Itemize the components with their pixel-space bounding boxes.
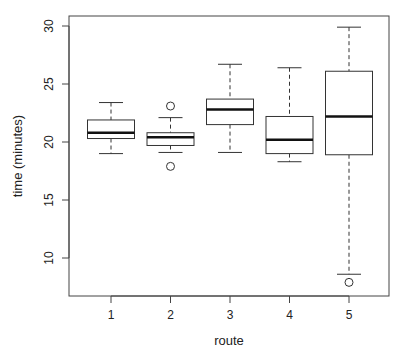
iqr-box [326, 71, 373, 155]
x-tick-label: 3 [227, 308, 234, 322]
outlier-point [167, 102, 175, 110]
x-tick-label: 1 [108, 308, 115, 322]
x-tick-label: 2 [167, 308, 174, 322]
iqr-box [147, 133, 194, 146]
iqr-box [266, 116, 313, 153]
box-route-4 [266, 68, 313, 162]
boxes [88, 27, 373, 286]
box-route-2 [147, 102, 194, 170]
boxplot-chart: 1015202530 12345 route time (minutes) [0, 0, 401, 359]
y-tick-label: 30 [42, 19, 56, 33]
box-route-3 [207, 64, 254, 152]
iqr-box [88, 120, 135, 139]
x-tick-label: 5 [346, 308, 353, 322]
y-axis-label: time (minutes) [10, 115, 25, 197]
plot-frame [69, 16, 389, 296]
x-axis-label: route [214, 333, 244, 348]
x-axis: 12345 [108, 296, 353, 322]
y-axis: 1015202530 [42, 19, 69, 265]
outlier-point [345, 278, 353, 286]
y-tick-label: 20 [42, 135, 56, 149]
outlier-point [167, 162, 175, 170]
iqr-box [207, 99, 254, 125]
box-route-1 [88, 103, 135, 154]
y-tick-label: 25 [42, 77, 56, 91]
box-route-5 [326, 27, 373, 286]
y-tick-label: 15 [42, 193, 56, 207]
x-tick-label: 4 [286, 308, 293, 322]
y-tick-label: 10 [42, 251, 56, 265]
